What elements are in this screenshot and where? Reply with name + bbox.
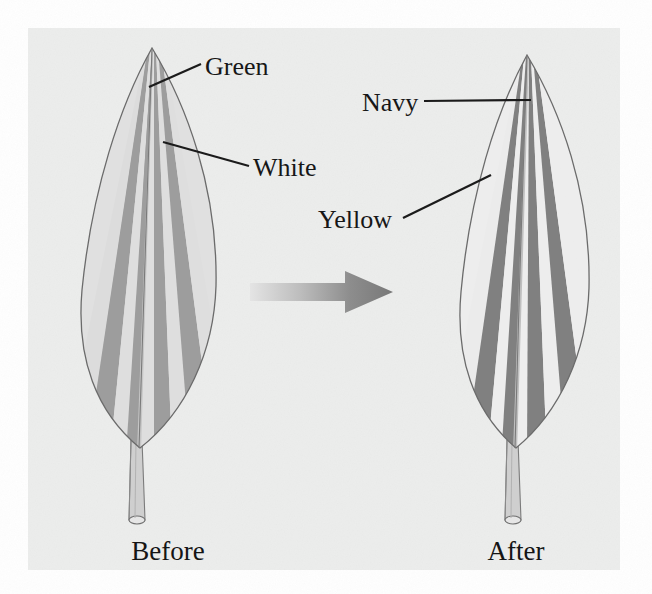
label-white: White [253,153,317,182]
label-green: Green [205,52,269,81]
leaf-after-stem [505,440,521,524]
figure-canvas: Green White Navy Yellow Before After [0,0,652,594]
leader-navy [424,100,531,101]
caption-after: After [488,536,545,566]
leaf-before-stem [129,440,145,524]
label-yellow: Yellow [318,205,392,234]
label-navy: Navy [362,88,418,117]
caption-before: Before [131,536,204,566]
